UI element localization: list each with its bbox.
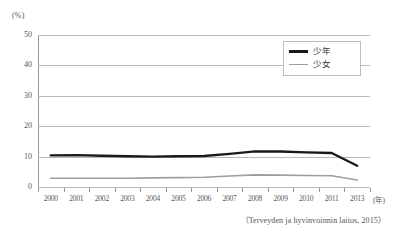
x-axis-tick-mark [293, 188, 294, 192]
y-axis-tick-label: 50 [6, 30, 32, 39]
x-axis-tick-mark [217, 188, 218, 192]
x-axis-tick-mark [140, 188, 141, 192]
x-axis-tick-mark [166, 188, 167, 192]
y-axis-tick-label: 40 [6, 60, 32, 69]
x-axis-tick-mark [268, 188, 269, 192]
y-axis-tick-label: 0 [6, 182, 32, 191]
x-axis-tick-mark [89, 188, 90, 192]
x-axis-unit-label: (年) [373, 194, 385, 205]
gridline [38, 187, 370, 188]
x-axis-tick-mark [319, 188, 320, 192]
legend-item-boys: 少年 [289, 45, 355, 58]
x-axis-tick-mark [344, 188, 345, 192]
x-axis-tick-mark [115, 188, 116, 192]
x-axis-tick-mark [64, 188, 65, 192]
series-line-girls [51, 175, 357, 180]
x-axis-tick-mark [191, 188, 192, 192]
x-axis-tick-mark [370, 188, 371, 192]
series-line-boys [51, 151, 357, 165]
legend-label-boys: 少年 [313, 47, 331, 56]
x-axis-tick-label: 2013 [342, 194, 372, 203]
x-axis-tick-mark [38, 188, 39, 192]
source-note: （Terveyden ja hyvinvoinnin laitos, 2015） [0, 214, 386, 225]
y-axis-tick-label: 30 [6, 91, 32, 100]
chart-container: (%) 50403020100 200020012002200320042005… [0, 0, 396, 236]
x-axis-tick-mark [242, 188, 243, 192]
legend-swatch-boys-icon [289, 50, 308, 53]
legend-item-girls: 少女 [289, 58, 355, 71]
legend-label-girls: 少女 [313, 60, 331, 69]
chart-legend: 少年 少女 [283, 41, 361, 76]
legend-swatch-girls-icon [289, 64, 308, 66]
y-axis-tick-label: 10 [6, 152, 32, 161]
y-axis-unit-label: (%) [12, 11, 25, 20]
y-axis-tick-label: 20 [6, 121, 32, 130]
